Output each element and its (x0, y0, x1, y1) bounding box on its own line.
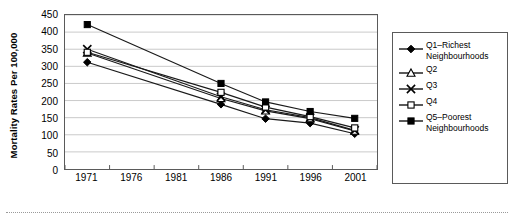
y-tick-label: 200 (41, 95, 58, 106)
x-axis-tick-labels: 1971197619811986199119962001 (64, 172, 378, 188)
plot-area (64, 14, 378, 170)
x-tick-label: 1976 (120, 172, 142, 183)
legend-label: Q4 (426, 96, 437, 107)
y-tick-label: 250 (41, 78, 58, 89)
marker-filled-diamond (262, 115, 270, 123)
y-tick-label: 100 (41, 130, 58, 141)
y-tick-label: 400 (41, 26, 58, 37)
legend-label: Q2 (426, 64, 437, 75)
marker-filled-square (218, 80, 224, 86)
legend-item-q3[interactable]: Q3 (398, 80, 502, 93)
chart-legend: Q1–Richest NeighbourhoodsQ2Q3Q4Q5–Poores… (392, 32, 508, 184)
marker-filled-square (408, 118, 414, 124)
marker-filled-square (262, 99, 268, 105)
legend-marker-x-cross (398, 83, 424, 95)
x-tick-label: 1981 (165, 172, 187, 183)
legend-label: Q5–Poorest Neighbourhoods (426, 112, 488, 133)
legend-marker-filled-diamond (398, 43, 424, 55)
legend-swatch (398, 41, 424, 53)
legend-swatch (398, 113, 424, 125)
x-tick-label: 2001 (344, 172, 366, 183)
legend-label: Q3 (426, 80, 437, 91)
legend-swatch (398, 65, 424, 77)
legend-item-q2[interactable]: Q2 (398, 64, 502, 77)
marker-open-square (218, 89, 224, 95)
series-4 (84, 49, 358, 131)
y-tick-label: 0 (52, 165, 58, 176)
legend-item-q5[interactable]: Q5–Poorest Neighbourhoods (398, 112, 502, 133)
marker-filled-diamond (84, 58, 92, 66)
marker-filled-square (84, 22, 90, 28)
marker-filled-square (307, 108, 313, 114)
x-tick-label: 1986 (210, 172, 232, 183)
y-axis-title-text: Mortality Rates Per 100,000 (9, 32, 20, 158)
y-tick-label: 350 (41, 43, 58, 54)
legend-label: Q1–Richest Neighbourhoods (426, 40, 488, 61)
legend-item-q4[interactable]: Q4 (398, 96, 502, 109)
marker-filled-square (352, 115, 358, 121)
y-tick-label: 300 (41, 61, 58, 72)
marker-open-square (352, 125, 358, 131)
x-tick-label: 1991 (255, 172, 277, 183)
y-axis-tick-labels: 050100150200250300350400450 (26, 14, 62, 170)
legend-marker-open-triangle (398, 67, 424, 79)
y-tick-label: 450 (41, 9, 58, 20)
x-tick-label: 1996 (300, 172, 322, 183)
marker-open-square (84, 49, 90, 55)
bottom-divider (6, 212, 508, 213)
plot-svg (65, 15, 377, 169)
x-tick-label: 1971 (75, 172, 97, 183)
legend-swatch (398, 81, 424, 93)
legend-marker-filled-square (398, 115, 424, 127)
legend-swatch (398, 97, 424, 109)
y-tick-label: 50 (47, 147, 58, 158)
y-tick-label: 150 (41, 113, 58, 124)
legend-item-q1[interactable]: Q1–Richest Neighbourhoods (398, 40, 502, 61)
marker-open-square (408, 102, 414, 108)
mortality-rates-line-chart: Mortality Rates Per 100,000 050100150200… (0, 0, 514, 220)
y-axis-title: Mortality Rates Per 100,000 (0, 0, 28, 190)
marker-filled-diamond (407, 45, 415, 53)
legend-marker-open-square (398, 99, 424, 111)
